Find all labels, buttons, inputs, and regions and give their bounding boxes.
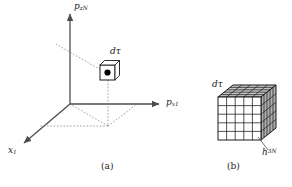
dtau-a-symbol: τ (116, 46, 121, 56)
projection-line-base-right (108, 104, 137, 126)
axis-label-depth: x1 (8, 146, 17, 156)
axis-label-horizontal-sub: x1 (172, 101, 179, 107)
panel-b-cube (218, 85, 276, 150)
projection-line-base-left (70, 104, 108, 126)
panel-caption-a: (a) (101, 162, 113, 171)
figure-root: pzN px1 x1 dτ dτ h3N (a) (b) (0, 0, 292, 187)
axis-label-vertical: pzN (74, 2, 88, 12)
panel-a-projection-lines (40, 44, 137, 126)
volume-element-cube-a (100, 61, 120, 81)
cube-b-front-face (218, 97, 261, 140)
dtau-b-symbol: τ (218, 79, 223, 89)
state-point-dot (104, 69, 110, 75)
figure-canvas (0, 0, 292, 187)
axis-label-horizontal: px1 (166, 98, 179, 108)
panel-a-axes (24, 14, 159, 143)
axis-label-depth-sub: 1 (13, 149, 17, 155)
h-exponent: 3N (268, 148, 277, 154)
axis-label-vertical-sub: zN (80, 5, 88, 11)
axis-depth (24, 104, 70, 143)
cell-volume-label: h3N (262, 148, 277, 157)
volume-element-label-b: dτ (212, 80, 223, 89)
projection-line-diagonal (56, 44, 101, 70)
volume-element-label-a: dτ (110, 47, 121, 56)
panel-caption-b: (b) (227, 162, 240, 171)
